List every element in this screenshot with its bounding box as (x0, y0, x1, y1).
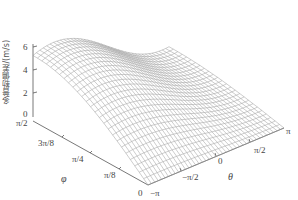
z-axis-title: 多普勒偏差/(m/s) (2, 40, 16, 104)
theta-axis: −π −π/2 0 π/2 π θ (148, 126, 291, 198)
theta-axis-title: θ (228, 171, 233, 182)
surface-mesh (33, 38, 284, 185)
theta-tick-0: 0 (218, 156, 223, 166)
z-tick-6: 6 (23, 42, 28, 52)
phi-tick-pi8: π/8 (104, 170, 116, 180)
phi-tick-pi2: π/2 (16, 118, 28, 128)
theta-tick-neg-pi2: −π/2 (182, 172, 199, 182)
theta-tick-neg-pi: −π (150, 188, 160, 198)
theta-tick-pi2: π/2 (254, 145, 266, 155)
z-tick-2: 2 (23, 88, 28, 98)
z-tick-4: 4 (23, 65, 28, 75)
phi-axis-title: φ (61, 173, 67, 184)
phi-tick-pi4: π/4 (72, 154, 84, 164)
phi-tick-3pi8: 3π/8 (38, 138, 55, 148)
z-axis: 6 4 2 0 (23, 42, 37, 119)
phi-tick-0: 0 (138, 188, 143, 198)
surface-plot: 6 4 2 0 π/2 3π/8 π/4 π/8 0 φ −π −π/2 0 π… (0, 0, 298, 200)
theta-tick-pi: π (286, 126, 291, 136)
